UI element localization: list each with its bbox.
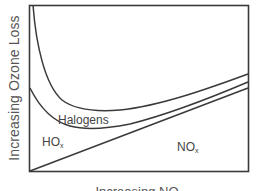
x-axis-text: Increasing NO — [95, 184, 178, 191]
hox-subscript: x — [60, 142, 64, 149]
x-axis-label: Increasing NOx — [95, 184, 182, 191]
y-axis-label: Increasing Ozone Loss — [6, 15, 22, 160]
nox-text: NO — [177, 140, 195, 154]
hox-text: HO — [42, 135, 60, 149]
halogens-text: Halogens — [58, 113, 109, 127]
ozone-loss-chart — [0, 0, 259, 191]
nox-label: NOx — [177, 140, 199, 154]
halogens-label: Halogens — [58, 113, 109, 127]
hox-label: HOx — [42, 135, 64, 149]
nox-subscript: x — [195, 147, 199, 154]
